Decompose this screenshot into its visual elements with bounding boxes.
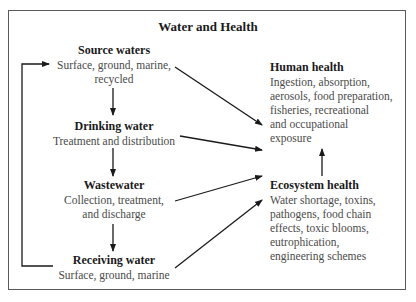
arrow-drinking-to-human-health [180,136,262,150]
arrow-source-to-human-health [175,67,262,125]
arrow-receiving-to-ecosystem-health [175,200,262,268]
arrow-receiving-loop-to-source [22,64,53,266]
arrows-layer [0,0,416,302]
arrow-wastewater-to-ecosystem-health [175,176,262,201]
